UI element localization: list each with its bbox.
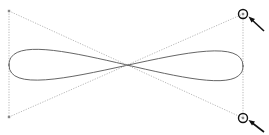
bezier-figure-eight-diagram (0, 0, 269, 135)
crossing-point-marker (125, 64, 127, 66)
control-point-handles (8, 10, 244, 119)
control-point-bottom-left[interactable] (8, 116, 10, 118)
anchor-point-left[interactable] (8, 64, 10, 66)
control-point-top-right[interactable] (242, 13, 244, 15)
control-point-top-left[interactable] (8, 10, 10, 12)
control-point-bottom-right[interactable] (242, 117, 244, 119)
anchor-point-right[interactable] (242, 65, 244, 67)
